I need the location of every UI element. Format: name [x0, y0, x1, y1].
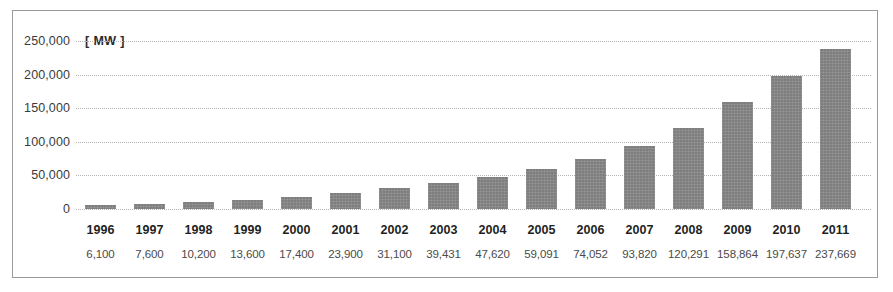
data-value-label: 47,620 — [468, 243, 517, 265]
x-axis-year-label: 2003 — [419, 217, 468, 243]
bar — [526, 169, 557, 209]
data-value-label: 6,100 — [76, 243, 125, 265]
data-value-label: 93,820 — [615, 243, 664, 265]
data-value-label: 74,052 — [566, 243, 615, 265]
y-axis-tick-label: 150,000 — [24, 101, 70, 115]
x-axis-column: 200123,900 — [321, 217, 370, 265]
data-value-label: 31,100 — [370, 243, 419, 265]
data-value-label: 59,091 — [517, 243, 566, 265]
x-axis-column: 200674,052 — [566, 217, 615, 265]
x-axis-column: 199913,600 — [223, 217, 272, 265]
x-axis-year-label: 2000 — [272, 217, 321, 243]
x-axis-year-label: 2002 — [370, 217, 419, 243]
bar — [232, 200, 263, 209]
bar — [428, 183, 459, 209]
x-axis-column: 200447,620 — [468, 217, 517, 265]
x-axis-column: 19977,600 — [125, 217, 174, 265]
data-value-label: 10,200 — [174, 243, 223, 265]
gridline — [76, 41, 871, 42]
x-axis-year-label: 1996 — [76, 217, 125, 243]
x-axis-year-label: 2001 — [321, 217, 370, 243]
gridline — [76, 209, 871, 210]
x-axis-year-label: 2011 — [811, 217, 860, 243]
x-axis-year-label: 2006 — [566, 217, 615, 243]
bar — [134, 204, 165, 209]
x-axis-column: 2010197,637 — [762, 217, 811, 265]
y-axis-tick-label: 250,000 — [24, 34, 70, 48]
x-axis-column: 2008120,291 — [664, 217, 713, 265]
y-axis-tick-label: 50,000 — [31, 168, 70, 182]
bar — [281, 197, 312, 209]
x-axis-column: 200017,400 — [272, 217, 321, 265]
x-axis-column: 2009158,864 — [713, 217, 762, 265]
x-axis-column: 200793,820 — [615, 217, 664, 265]
x-axis-column: 19966,100 — [76, 217, 125, 265]
y-axis-tick-label: 0 — [63, 202, 70, 216]
bar — [85, 205, 116, 209]
data-value-label: 158,864 — [713, 243, 762, 265]
gridline — [76, 75, 871, 76]
x-axis: 19966,10019977,600199810,200199913,60020… — [76, 217, 871, 273]
bar — [771, 76, 802, 209]
plot-area — [76, 41, 871, 209]
data-value-label: 23,900 — [321, 243, 370, 265]
bar — [379, 188, 410, 209]
x-axis-column: 200339,431 — [419, 217, 468, 265]
data-value-label: 120,291 — [664, 243, 713, 265]
y-axis-tick-label: 100,000 — [24, 135, 70, 149]
x-axis-column: 200231,100 — [370, 217, 419, 265]
data-value-label: 7,600 — [125, 243, 174, 265]
x-axis-year-label: 2008 — [664, 217, 713, 243]
data-value-label: 17,400 — [272, 243, 321, 265]
y-axis-tick-label: 200,000 — [24, 68, 70, 82]
bar — [477, 177, 508, 209]
data-value-label: 39,431 — [419, 243, 468, 265]
bar — [722, 102, 753, 209]
x-axis-column: 200559,091 — [517, 217, 566, 265]
bar — [183, 202, 214, 209]
x-axis-year-label: 2007 — [615, 217, 664, 243]
x-axis-column: 199810,200 — [174, 217, 223, 265]
bar — [673, 128, 704, 209]
x-axis-year-label: 2009 — [713, 217, 762, 243]
x-axis-year-label: 2005 — [517, 217, 566, 243]
x-axis-year-label: 1999 — [223, 217, 272, 243]
bar — [575, 159, 606, 209]
data-value-label: 197,637 — [762, 243, 811, 265]
y-axis: 050,000100,000150,000200,000250,000 — [13, 41, 70, 209]
data-value-label: 237,669 — [811, 243, 860, 265]
x-axis-column: 2011237,669 — [811, 217, 860, 265]
bar — [330, 193, 361, 209]
data-value-label: 13,600 — [223, 243, 272, 265]
x-axis-year-label: 1998 — [174, 217, 223, 243]
x-axis-year-label: 1997 — [125, 217, 174, 243]
x-axis-year-label: 2004 — [468, 217, 517, 243]
bar — [624, 146, 655, 209]
bar — [820, 49, 851, 209]
chart-frame: 050,000100,000150,000200,000250,000 [ MW… — [12, 10, 878, 278]
x-axis-year-label: 2010 — [762, 217, 811, 243]
